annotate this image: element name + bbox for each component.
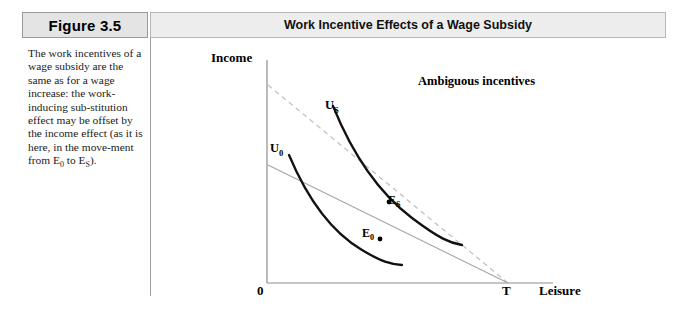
ambiguous-incentives-annotation: Ambiguous incentives xyxy=(418,74,535,89)
figure-number-tag: Figure 3.5 xyxy=(22,12,148,38)
figure-title: Work Incentive Effects of a Wage Subsidy xyxy=(150,12,666,38)
chart-area: Income Leisure 0 T Ambiguous incentives … xyxy=(150,38,688,316)
origin-label: 0 xyxy=(257,283,264,299)
point-label-e0: E0 xyxy=(362,226,374,242)
point-label-es: ES xyxy=(388,193,401,209)
original-budget-line xyxy=(268,165,508,283)
time-endowment-label: T xyxy=(502,283,511,299)
figure-header: Figure 3.5 Work Incentive Effects of a W… xyxy=(22,12,666,38)
tangency-point-e0 xyxy=(378,237,383,242)
indifference-curve-u0 xyxy=(289,155,402,265)
curve-label-us: US xyxy=(325,98,339,115)
caption-text-line: The work incentives of a wage subsidy ar… xyxy=(28,47,143,166)
figure-caption: The work incentives of a wage subsidy ar… xyxy=(28,47,144,172)
figure-container: Figure 3.5 Work Incentive Effects of a W… xyxy=(0,0,688,316)
indifference-curve-us xyxy=(333,106,462,245)
curve-label-u0: U0 xyxy=(270,141,283,158)
y-axis-label: Income xyxy=(211,50,252,66)
x-axis-label: Leisure xyxy=(539,283,581,299)
